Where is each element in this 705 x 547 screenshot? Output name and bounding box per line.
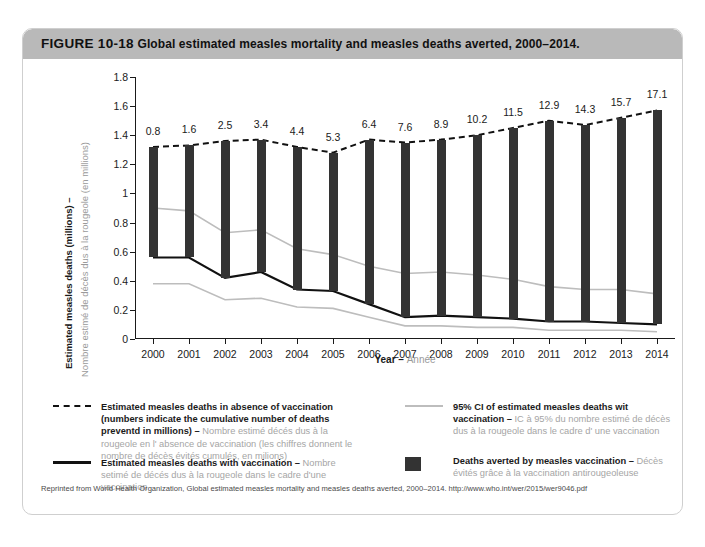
y-axis-tick-mark — [130, 223, 135, 224]
x-axis-tick-mark — [621, 339, 622, 344]
legend-label-en: Estimated measles deaths with vaccinatio… — [101, 458, 303, 468]
bar-value-label: 2.5 — [218, 119, 233, 131]
bar-deaths-averted — [437, 140, 446, 316]
legend-label-en: Deaths averted by measles vaccination – — [453, 456, 636, 466]
y-axis-tick-mark — [130, 310, 135, 311]
bar-value-label: 8.9 — [434, 118, 449, 130]
y-axis-tick-label: 1 — [122, 187, 128, 199]
x-axis-tick-mark — [405, 339, 406, 344]
y-axis-tick-label: 0.4 — [113, 275, 128, 287]
bar-deaths-averted — [149, 147, 158, 258]
bar-deaths-averted — [221, 141, 230, 278]
x-axis-tick-mark — [225, 339, 226, 344]
figure-footnote: Reprinted from World Health Organization… — [41, 484, 666, 494]
x-axis-tick-mark — [297, 339, 298, 344]
x-axis-tick-mark — [441, 339, 442, 344]
x-axis-title-en: Year — [374, 354, 395, 365]
chart-canvas: 00.20.40.60.811.21.41.61.80.820001.62001… — [135, 77, 675, 339]
y-axis-label-en: Estimated measles deaths (millions) – — [63, 197, 74, 369]
bar-value-label: 4.4 — [290, 125, 305, 137]
bar-deaths-averted — [185, 145, 194, 257]
x-axis-title: Year – Année — [135, 354, 675, 365]
bar-value-label: 1.6 — [182, 123, 197, 135]
bar-deaths-averted — [329, 153, 338, 291]
bar-deaths-averted — [293, 147, 302, 290]
x-axis-tick-mark — [549, 339, 550, 344]
bar-deaths-averted — [509, 128, 518, 319]
bar-value-label: 12.9 — [539, 99, 559, 111]
x-axis-tick-mark — [153, 339, 154, 344]
legend-item: Estimated measles deaths in absence of v… — [101, 401, 363, 462]
figure-number: FIGURE 10-18 — [41, 36, 134, 51]
bar-value-label: 0.8 — [146, 125, 161, 137]
bar-value-label: 3.4 — [254, 118, 269, 130]
figure-title-text: Global estimated measles mortality and m… — [137, 37, 579, 51]
y-axis-tick-mark — [130, 339, 135, 340]
y-axis-tick-label: 1.4 — [113, 129, 128, 141]
legend-item: 95% CI of estimated measles deaths wit v… — [453, 401, 681, 438]
x-axis-tick-mark — [369, 339, 370, 344]
x-axis-title-sep: – — [396, 354, 407, 365]
legend-item: Deaths averted by measles vaccination – … — [453, 455, 681, 479]
bar-value-label: 17.1 — [647, 88, 667, 100]
y-axis-tick-label: 0 — [122, 333, 128, 345]
bar-value-label: 15.7 — [611, 96, 631, 108]
y-axis-tick-label: 1.6 — [113, 100, 128, 112]
legend-swatch-dashed-line-icon — [53, 405, 91, 407]
bar-deaths-averted — [581, 125, 590, 322]
y-axis-tick-mark — [130, 106, 135, 107]
y-axis-tick-label: 1.8 — [113, 71, 128, 83]
x-axis-tick-mark — [513, 339, 514, 344]
y-axis-tick-label: 0.2 — [113, 304, 128, 316]
y-axis-tick-mark — [130, 164, 135, 165]
bar-deaths-averted — [653, 110, 662, 324]
figure-card: FIGURE 10-18 Global estimated measles mo… — [22, 28, 683, 515]
bar-deaths-averted — [617, 118, 626, 323]
bar-value-label: 10.2 — [467, 113, 487, 125]
chart-legend: Estimated measles deaths in absence of v… — [23, 399, 682, 484]
figure-title: FIGURE 10-18 Global estimated measles mo… — [41, 36, 580, 51]
legend-swatch-solid-line-icon — [53, 461, 91, 464]
bar-deaths-averted — [401, 143, 410, 318]
x-axis-title-fr: Année — [407, 354, 436, 365]
plot-area: Estimated measles deaths (millions) – No… — [23, 59, 682, 389]
y-axis-tick-mark — [130, 281, 135, 282]
legend-swatch-gray-line-icon — [405, 405, 443, 407]
y-axis-tick-mark — [130, 193, 135, 194]
x-axis-tick-mark — [261, 339, 262, 344]
y-axis-tick-mark — [130, 252, 135, 253]
y-axis-tick-label: 0.6 — [113, 246, 128, 258]
bar-value-label: 6.4 — [362, 118, 377, 130]
y-axis-tick-label: 1.2 — [113, 158, 128, 170]
bar-deaths-averted — [365, 140, 374, 304]
bar-deaths-averted — [473, 135, 482, 317]
x-axis-tick-mark — [585, 339, 586, 344]
x-axis-tick-mark — [477, 339, 478, 344]
bar-value-label: 5.3 — [326, 131, 341, 143]
bar-value-label: 11.5 — [503, 106, 523, 118]
y-axis-tick-label: 0.8 — [113, 217, 128, 229]
bar-deaths-averted — [257, 140, 266, 272]
bar-value-label: 7.6 — [398, 121, 413, 133]
legend-swatch-box-icon — [405, 457, 421, 471]
y-axis-label-fr: Nombre estimé de décès dus à la rougeole… — [79, 142, 90, 377]
y-axis-tick-mark — [130, 77, 135, 78]
x-axis-tick-mark — [333, 339, 334, 344]
x-axis-tick-mark — [189, 339, 190, 344]
y-axis-tick-mark — [130, 135, 135, 136]
bar-value-label: 14.3 — [575, 103, 595, 115]
bar-deaths-averted — [545, 121, 554, 322]
x-axis-tick-mark — [657, 339, 658, 344]
